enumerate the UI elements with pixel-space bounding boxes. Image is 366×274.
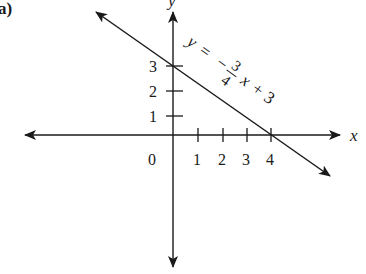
origin-label: 0: [148, 151, 156, 168]
equation-lhs: y: [182, 31, 201, 52]
y-tick-label-3: 3: [149, 58, 157, 75]
equation-numerator: 3: [229, 57, 244, 74]
equation-denominator: 4: [218, 72, 234, 90]
equation-label: y = − 3 4 x + 3: [176, 27, 281, 117]
equation-variable: x: [236, 70, 254, 91]
equation-constant: 3: [261, 88, 279, 108]
plotted-line: [96, 12, 330, 176]
part-label: a): [0, 0, 12, 18]
y-tick-label-2: 2: [149, 83, 157, 100]
coordinate-plane: a) x y 0 1 2 3 4 3 2 1 y = − 3 4: [0, 0, 366, 274]
y-tick-label-1: 1: [149, 108, 157, 125]
x-tick-label-4: 4: [266, 151, 274, 168]
x-tick-label-1: 1: [193, 151, 201, 168]
y-axis-label: y: [166, 0, 176, 10]
x-axis-label: x: [349, 126, 358, 145]
x-tick-label-3: 3: [242, 151, 250, 168]
y-tick-marks: [166, 66, 183, 116]
x-tick-label-2: 2: [218, 151, 226, 168]
equation-equals: =: [196, 41, 215, 62]
